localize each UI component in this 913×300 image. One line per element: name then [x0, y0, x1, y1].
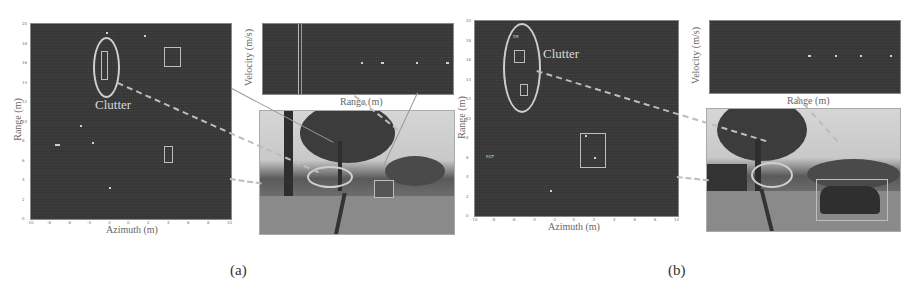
radar-point	[106, 32, 108, 34]
tick-label: 10	[22, 119, 27, 124]
tick-label: 14	[466, 77, 471, 82]
tick-label: 18	[22, 41, 27, 46]
tick-label: 0	[466, 213, 469, 218]
tick-label: -10	[471, 217, 478, 222]
velocity-stripe	[298, 24, 299, 94]
radar-point	[80, 125, 82, 127]
caption-b: (b)	[668, 262, 686, 279]
radar-point	[144, 35, 146, 37]
target-box	[164, 47, 181, 67]
tick-label: 10	[674, 217, 679, 222]
velocity-stripe	[301, 24, 302, 94]
radar-point	[585, 135, 587, 137]
tick-label: 6	[633, 217, 636, 222]
velocity-point	[446, 62, 449, 64]
tick-label: 12	[22, 99, 27, 104]
clutter-point-label: DR	[513, 34, 519, 39]
tick-label: 2	[466, 194, 469, 199]
velocity-point	[361, 62, 363, 64]
velocity-point	[860, 55, 862, 57]
tick-label: -4	[87, 220, 91, 225]
velocity-point	[381, 62, 384, 64]
tick-label: 10	[227, 220, 232, 225]
tick-label: -10	[27, 220, 34, 225]
clutter-box	[520, 84, 528, 96]
radar-point	[55, 144, 60, 146]
velocity-point	[416, 62, 418, 64]
velocity-plot-a-ylabel: Velocity (m/s)	[243, 29, 254, 86]
target-box	[374, 180, 394, 198]
radar-point	[550, 190, 552, 192]
clutter-box	[514, 50, 525, 63]
tick-label: 2	[22, 197, 25, 202]
tick-label: -6	[67, 220, 71, 225]
radar-plot-b: Clutter DR EGT	[474, 20, 679, 217]
tick-label: 14	[22, 80, 27, 85]
velocity-plot-b	[709, 20, 901, 94]
tick-label: 8	[22, 138, 25, 143]
caption-a: (a)	[230, 262, 247, 279]
tick-label: 4	[466, 174, 469, 179]
clutter-box	[101, 51, 108, 80]
tree	[717, 108, 807, 161]
tick-label: 18	[466, 38, 471, 43]
building	[707, 164, 747, 194]
ground	[260, 196, 454, 234]
tick-label: 6	[187, 220, 190, 225]
tick-label: 0	[22, 216, 25, 221]
clutter-ellipse	[503, 23, 541, 113]
velocity-point	[835, 55, 837, 57]
tick-label: -6	[512, 217, 516, 222]
tick-label: 20	[22, 21, 27, 26]
radar-point	[594, 157, 596, 159]
radar-plot-a-xlabel: Azimuth (m)	[106, 224, 158, 235]
tick-label: -4	[532, 217, 536, 222]
target-box	[816, 179, 888, 221]
tick-label: 6	[22, 158, 25, 163]
tick-label: -8	[491, 217, 495, 222]
radar-point	[109, 187, 111, 189]
velocity-point	[808, 55, 811, 57]
tick-label: 16	[22, 60, 27, 65]
tick-label: 6	[466, 155, 469, 160]
clutter-ellipse	[751, 162, 793, 188]
tick-label: 16	[466, 57, 471, 62]
velocity-point	[890, 55, 892, 57]
tick-label: 8	[654, 217, 657, 222]
radar-point	[92, 142, 94, 144]
tick-label: 4	[613, 217, 616, 222]
tick-label: 10	[466, 116, 471, 121]
connector-target-b	[677, 176, 709, 181]
velocity-plot-a	[262, 23, 454, 95]
point-label: EGT	[486, 154, 494, 159]
tick-label: 4	[22, 177, 25, 182]
tick-label: 8	[207, 220, 210, 225]
tick-label: 8	[466, 135, 469, 140]
clutter-label: Clutter	[95, 97, 131, 113]
camera-image-a	[259, 110, 455, 235]
velocity-plot-b-xlabel: Range (m)	[787, 95, 830, 106]
clutter-label: Clutter	[543, 46, 579, 62]
target-box	[580, 133, 606, 168]
connector-target-a	[230, 178, 262, 184]
tick-label: -8	[47, 220, 51, 225]
tick-label: 12	[466, 96, 471, 101]
tick-label: 4	[167, 220, 170, 225]
tree	[385, 156, 445, 186]
target-box	[164, 146, 173, 163]
tick-label: 20	[466, 18, 471, 23]
camera-image-b	[706, 108, 901, 232]
velocity-plot-b-ylabel: Velocity (m/s)	[690, 27, 701, 84]
radar-plot-b-xlabel: Azimuth (m)	[548, 221, 600, 232]
